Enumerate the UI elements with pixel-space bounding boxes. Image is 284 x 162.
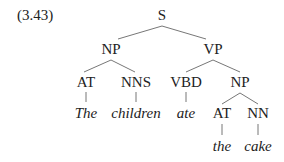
node-np-subject: NP xyxy=(101,42,120,57)
node-nn: NN xyxy=(247,106,269,121)
word-cake: cake xyxy=(244,139,271,154)
node-np-object: NP xyxy=(230,75,249,90)
word-the-object: the xyxy=(213,139,231,154)
node-at-object: AT xyxy=(213,106,231,121)
word-the: The xyxy=(75,106,98,121)
node-nns: NNS xyxy=(121,75,151,90)
edge-np-nns xyxy=(111,60,135,72)
word-ate: ate xyxy=(177,106,195,121)
edge-vp-vbd xyxy=(186,60,213,72)
edge-np-at xyxy=(84,60,111,72)
edge-s-vp xyxy=(162,26,206,39)
edge-np-nn xyxy=(240,93,258,104)
node-s: S xyxy=(158,8,166,23)
node-at: AT xyxy=(77,75,95,90)
node-vbd: VBD xyxy=(170,75,202,90)
word-children: children xyxy=(111,106,160,121)
edge-vp-np xyxy=(213,60,240,72)
edge-s-np xyxy=(118,26,162,39)
edge-np-at2 xyxy=(222,93,240,104)
node-vp: VP xyxy=(203,42,222,57)
